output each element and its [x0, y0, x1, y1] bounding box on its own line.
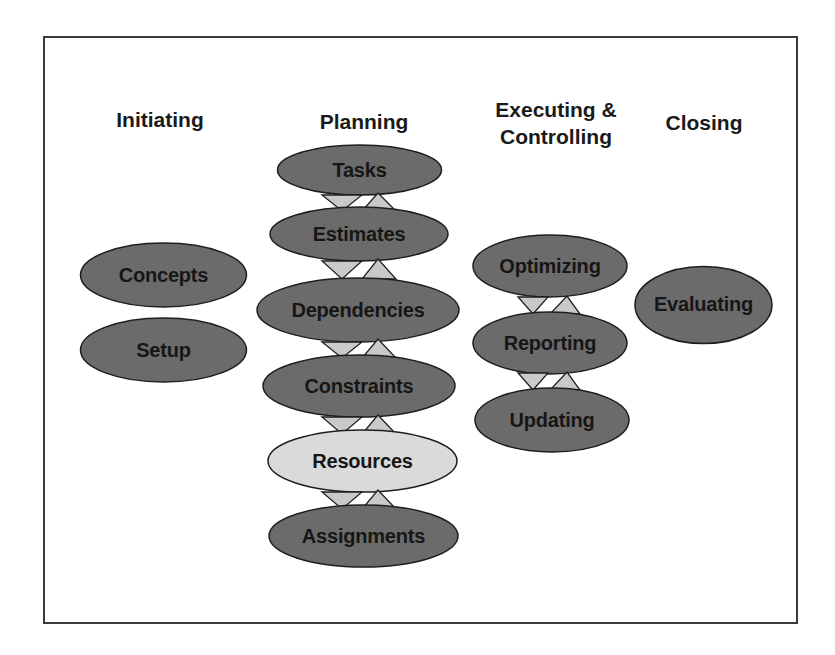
node-assignments[interactable]: Assignments: [269, 505, 458, 567]
node-label: Evaluating: [654, 293, 753, 316]
node-label: Resources: [312, 450, 412, 473]
arrow-down-icon: [322, 261, 362, 279]
node-label: Concepts: [119, 264, 209, 287]
node-updating[interactable]: Updating: [475, 388, 629, 452]
node-label: Constraints: [305, 375, 414, 398]
node-evaluating[interactable]: Evaluating: [635, 266, 772, 343]
node-label: Estimates: [313, 223, 406, 246]
node-dependencies[interactable]: Dependencies: [257, 278, 459, 342]
node-label: Optimizing: [499, 255, 600, 278]
node-reporting[interactable]: Reporting: [473, 312, 627, 374]
node-label: Setup: [136, 339, 191, 362]
node-tasks[interactable]: Tasks: [277, 145, 442, 195]
arrow-up-icon: [362, 259, 396, 279]
node-resources[interactable]: Resources: [268, 430, 457, 492]
node-optimizing[interactable]: Optimizing: [473, 235, 627, 297]
node-label: Dependencies: [291, 299, 424, 322]
node-label: Assignments: [302, 525, 425, 548]
node-constraints[interactable]: Constraints: [263, 355, 455, 417]
node-concepts[interactable]: Concepts: [80, 243, 247, 307]
node-estimates[interactable]: Estimates: [270, 207, 448, 261]
node-setup[interactable]: Setup: [80, 318, 247, 382]
node-label: Updating: [509, 409, 594, 432]
node-label: Tasks: [332, 159, 386, 182]
node-label: Reporting: [504, 332, 597, 355]
